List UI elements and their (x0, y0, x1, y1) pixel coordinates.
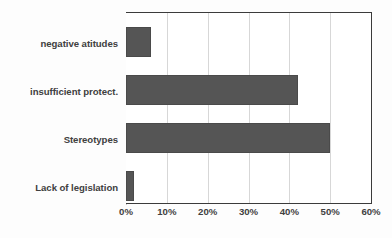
xtick-20: 20% (198, 206, 217, 217)
gridline-40 (289, 13, 290, 203)
gridline-50 (330, 13, 331, 203)
bar-negative-atitudes (126, 27, 151, 57)
category-label-lack-of-legislation: Lack of legislation (0, 182, 118, 193)
category-label-negative-atitudes: negative atitudes (0, 38, 118, 49)
xtick-0: 0% (119, 206, 133, 217)
gridline-20 (208, 13, 209, 203)
bar-insufficient-protect (126, 75, 298, 105)
bar-lack-of-legislation (126, 171, 134, 201)
x-axis-tick-labels: 0% 10% 20% 30% 40% 50% 60% (126, 206, 372, 226)
bar-stereotypes (126, 123, 330, 153)
xtick-30: 30% (239, 206, 258, 217)
plot-area (126, 12, 372, 204)
bar-chart: negative atitudes insufficient protect. … (0, 0, 392, 238)
xtick-10: 10% (157, 206, 176, 217)
gridline-30 (249, 13, 250, 203)
xtick-50: 50% (321, 206, 340, 217)
category-label-insufficient-protect: insufficient protect. (0, 86, 118, 97)
xtick-40: 40% (280, 206, 299, 217)
category-axis-labels: negative atitudes insufficient protect. … (0, 12, 122, 204)
category-label-stereotypes: Stereotypes (0, 134, 118, 145)
gridline-10 (167, 13, 168, 203)
xtick-60: 60% (361, 206, 380, 217)
